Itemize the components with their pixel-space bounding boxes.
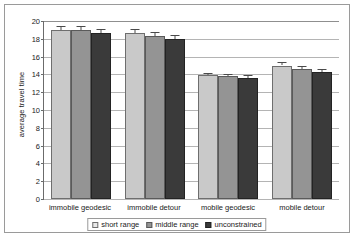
legend-swatch-icon — [92, 222, 98, 228]
bar[interactable] — [292, 69, 312, 199]
category-label: mobile geodesic — [191, 203, 265, 212]
error-bar-cap — [224, 74, 233, 75]
y-tick-label: 6 — [36, 141, 40, 150]
error-bar-cap — [96, 29, 105, 30]
y-tick-label: 4 — [36, 159, 40, 168]
error-bar-cap — [150, 32, 159, 33]
bar-slot — [145, 21, 165, 199]
error-bar-cap — [318, 69, 327, 70]
bar-slot — [71, 21, 91, 199]
bar-slot — [238, 21, 258, 199]
legend-label: short range — [101, 220, 139, 229]
error-bar-cap — [130, 29, 139, 30]
legend-item[interactable]: middle range — [146, 220, 198, 229]
y-tick-label: 14 — [32, 70, 40, 79]
gridline — [44, 199, 339, 200]
legend-item[interactable]: short range — [92, 220, 139, 229]
y-tick-label: 0 — [36, 195, 40, 204]
bar-slot — [218, 21, 238, 199]
bar-slot — [272, 21, 292, 199]
category-axis-labels: immobile geodesicimmobile detourmobile g… — [43, 203, 339, 212]
bar-slot — [165, 21, 185, 199]
legend-swatch-icon — [146, 222, 152, 228]
y-axis-title: average travel time — [17, 45, 26, 165]
y-tick-label: 12 — [32, 88, 40, 97]
bar-group — [192, 21, 266, 199]
y-tick-label: 8 — [36, 123, 40, 132]
y-tick-label: 18 — [32, 34, 40, 43]
bar[interactable] — [218, 76, 238, 199]
legend-label: middle range — [155, 220, 198, 229]
plot-area: 02468101214161820 — [43, 21, 339, 200]
bar[interactable] — [71, 30, 91, 199]
error-bar-cap — [298, 66, 307, 67]
y-tick-label: 20 — [32, 17, 40, 26]
bar[interactable] — [51, 30, 71, 199]
bar-groups — [44, 21, 339, 199]
bar[interactable] — [198, 75, 218, 199]
bar[interactable] — [312, 72, 332, 199]
error-bar-cap — [278, 62, 287, 63]
y-tick-label: 16 — [32, 52, 40, 61]
bar[interactable] — [91, 33, 111, 199]
bar-slot — [125, 21, 145, 199]
error-bar-cap — [76, 26, 85, 27]
bar-group — [265, 21, 339, 199]
legend-swatch-icon — [206, 222, 212, 228]
error-bar-cap — [170, 35, 179, 36]
error-bar-cap — [56, 26, 65, 27]
bar-slot — [198, 21, 218, 199]
category-label: immobile detour — [117, 203, 191, 212]
bar[interactable] — [165, 39, 185, 199]
bar-slot — [91, 21, 111, 199]
category-label: mobile detour — [265, 203, 339, 212]
chart-legend: short rangemiddle rangeunconstrained — [87, 218, 266, 231]
error-bar-cap — [204, 73, 213, 74]
legend-label: unconstrained — [215, 220, 262, 229]
y-tick-label: 2 — [36, 177, 40, 186]
bar[interactable] — [145, 36, 165, 199]
bar-group — [118, 21, 192, 199]
bar-slot — [312, 21, 332, 199]
bar[interactable] — [238, 78, 258, 199]
bar-group — [44, 21, 118, 199]
y-tick-label: 10 — [32, 106, 40, 115]
y-tick-mark — [41, 199, 44, 200]
chart-container: average travel time 02468101214161820 im… — [4, 4, 350, 233]
legend-item[interactable]: unconstrained — [206, 220, 262, 229]
category-label: immobile geodesic — [43, 203, 117, 212]
bar[interactable] — [272, 66, 292, 200]
error-bar-cap — [244, 75, 253, 76]
bar-slot — [292, 21, 312, 199]
bar-slot — [51, 21, 71, 199]
bar[interactable] — [125, 33, 145, 199]
